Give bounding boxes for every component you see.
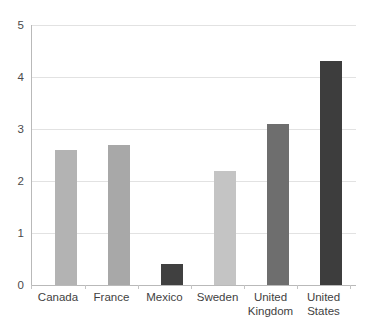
xlabel-mexico: Mexico bbox=[138, 291, 191, 305]
bar-united-kingdom bbox=[267, 124, 289, 285]
bar-chart: 5 4 3 2 1 0 Canada France Mexico Sweden … bbox=[0, 0, 366, 326]
bar-mexico bbox=[161, 264, 183, 285]
y-axis-line bbox=[31, 25, 32, 286]
gridline-4 bbox=[31, 77, 356, 78]
ytick-label-3: 3 bbox=[0, 123, 24, 135]
bar-united-states bbox=[320, 61, 342, 285]
xlabel-france: France bbox=[85, 291, 138, 305]
gridline-2 bbox=[31, 181, 356, 182]
xtick-5 bbox=[297, 285, 298, 289]
bar-france bbox=[108, 145, 130, 285]
xlabel-sweden: Sweden bbox=[191, 291, 244, 305]
xlabel-united-states: United States bbox=[297, 291, 350, 318]
ytick-label-0: 0 bbox=[0, 279, 24, 291]
xlabel-united-kingdom: United Kingdom bbox=[244, 291, 297, 318]
xtick-1 bbox=[85, 285, 86, 289]
ytick-label-1: 1 bbox=[0, 227, 24, 239]
xtick-0 bbox=[31, 285, 32, 289]
plot-area bbox=[31, 25, 356, 285]
xtick-3 bbox=[191, 285, 192, 289]
xtick-4 bbox=[244, 285, 245, 289]
xlabel-canada: Canada bbox=[31, 291, 85, 305]
gridline-3 bbox=[31, 129, 356, 130]
xtick-2 bbox=[138, 285, 139, 289]
bar-canada bbox=[55, 150, 77, 285]
bar-sweden bbox=[214, 171, 236, 285]
ytick-label-4: 4 bbox=[0, 71, 24, 83]
x-axis-line bbox=[31, 285, 356, 286]
ytick-label-2: 2 bbox=[0, 175, 24, 187]
gridline-5 bbox=[31, 25, 356, 26]
xtick-6 bbox=[350, 285, 351, 289]
ytick-label-5: 5 bbox=[0, 19, 24, 31]
gridline-1 bbox=[31, 233, 356, 234]
